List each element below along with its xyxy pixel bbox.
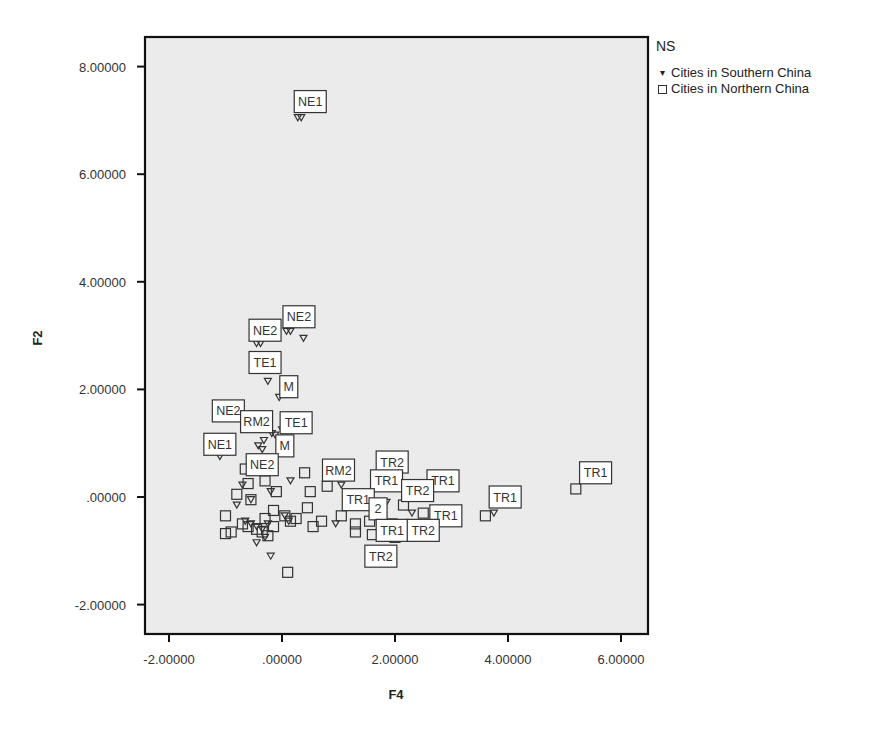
svg-text:NE1: NE1: [208, 438, 232, 452]
svg-text:NE2: NE2: [253, 324, 277, 338]
point-label: TR2: [402, 480, 434, 502]
svg-text:TE1: TE1: [285, 416, 308, 430]
svg-text:RM2: RM2: [243, 415, 269, 429]
point-label: NE2: [283, 306, 315, 328]
x-axis: -2.00000.000002.000004.000006.00000: [143, 634, 644, 667]
point-label: TE1: [249, 352, 281, 374]
point-label: RM2: [241, 411, 273, 433]
point-label: TR2: [407, 519, 439, 541]
svg-text:M: M: [280, 439, 290, 453]
x-tick-label: 4.00000: [485, 652, 532, 667]
plot-canvas: -2.00000.000002.000004.000006.000008.000…: [0, 0, 874, 741]
plot-area: [145, 37, 648, 634]
svg-text:NE2: NE2: [216, 404, 240, 418]
y-tick-label: 6.00000: [79, 167, 126, 182]
svg-text:TR1: TR1: [375, 474, 399, 488]
svg-text:TR2: TR2: [369, 550, 393, 564]
triangle-down-icon: ▾: [656, 67, 668, 78]
svg-text:RM2: RM2: [325, 464, 351, 478]
svg-text:TR2: TR2: [411, 524, 435, 538]
point-label: RM2: [323, 459, 355, 481]
svg-text:TR1: TR1: [584, 466, 608, 480]
point-label: TR1: [376, 519, 408, 541]
legend-label: Cities in Northern China: [671, 81, 809, 96]
legend-item-northern: Cities in Northern China: [656, 80, 811, 96]
y-axis-title: F2: [30, 330, 45, 345]
y-axis: -2.00000.000002.000004.000006.000008.000…: [75, 60, 145, 613]
svg-text:NE2: NE2: [250, 458, 274, 472]
y-tick-label: 2.00000: [79, 382, 126, 397]
svg-text:NE2: NE2: [287, 310, 311, 324]
svg-text:TR1: TR1: [380, 524, 404, 538]
point-label: 2: [369, 498, 387, 520]
x-tick-label: .00000: [262, 652, 302, 667]
svg-text:TR1: TR1: [346, 493, 370, 507]
point-label: NE2: [246, 454, 278, 476]
legend-title: NS: [656, 38, 811, 54]
svg-text:NE1: NE1: [298, 95, 322, 109]
point-label: NE1: [204, 433, 236, 455]
point-label: TR1: [489, 486, 521, 508]
svg-text:TR2: TR2: [406, 484, 430, 498]
x-tick-label: 6.00000: [598, 652, 645, 667]
y-tick-label: 8.00000: [79, 60, 126, 75]
point-label: M: [280, 376, 298, 398]
svg-text:TR1: TR1: [493, 491, 517, 505]
square-icon: [656, 81, 668, 96]
y-tick-label: .00000: [86, 490, 126, 505]
svg-text:TR1: TR1: [431, 474, 455, 488]
scatter-chart: -2.00000.000002.000004.000006.000008.000…: [0, 0, 874, 741]
point-label: NE2: [212, 400, 244, 422]
point-label: NE1: [294, 91, 326, 113]
legend-label: Cities in Southern China: [671, 65, 811, 80]
x-axis-title: F4: [388, 687, 404, 702]
point-label: TE1: [280, 412, 312, 434]
point-label: TR1: [371, 470, 403, 492]
svg-text:TR2: TR2: [380, 456, 404, 470]
y-tick-label: 4.00000: [79, 275, 126, 290]
point-label: TR2: [365, 545, 397, 567]
svg-text:2: 2: [375, 502, 382, 516]
legend: NS ▾ Cities in Southern China Cities in …: [656, 38, 811, 96]
point-label: TR1: [580, 462, 612, 484]
svg-text:TE1: TE1: [254, 356, 277, 370]
svg-text:M: M: [284, 380, 294, 394]
point-label: NE2: [249, 319, 281, 341]
x-tick-label: -2.00000: [143, 652, 194, 667]
y-tick-label: -2.00000: [75, 598, 126, 613]
x-tick-label: 2.00000: [372, 652, 419, 667]
legend-item-southern: ▾ Cities in Southern China: [656, 64, 811, 80]
